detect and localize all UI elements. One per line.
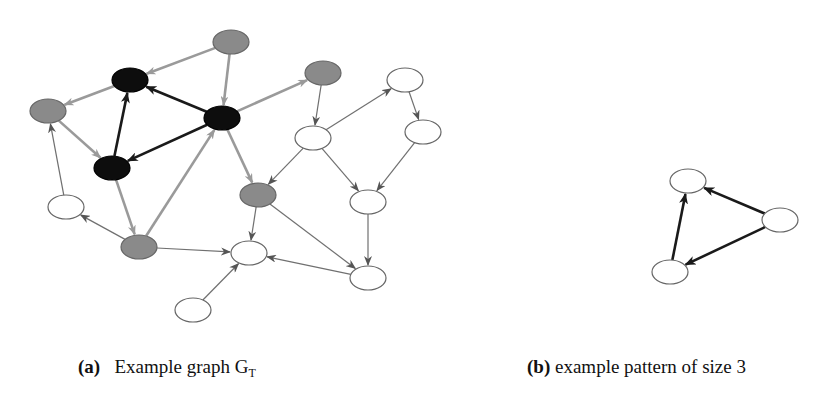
edge-b1-to-g2 (65, 86, 115, 105)
edge-w3-to-w4 (377, 143, 415, 191)
caption-a-label: (a) (78, 356, 100, 377)
node-wb (175, 298, 211, 322)
example-graph-gt (30, 30, 441, 322)
edge-g5-to-w5 (270, 204, 355, 268)
node-p3 (652, 260, 688, 284)
node-b1 (112, 68, 148, 92)
node-p2 (762, 208, 798, 232)
edge-g4-to-b2 (146, 130, 214, 236)
edge-g5-to-wc (251, 207, 256, 240)
edge-w1-to-w4 (322, 148, 358, 190)
caption-b-label: (b) (527, 356, 550, 377)
edge-wl-to-g2 (50, 124, 63, 195)
node-w3 (405, 120, 441, 144)
edge-w1-to-g5 (268, 148, 303, 184)
node-g5 (240, 183, 276, 207)
edge-b3-to-b1 (114, 93, 127, 156)
edge-b3-to-g4 (116, 180, 135, 235)
edge-wb-to-wc (203, 264, 239, 300)
edge-g1-to-b2 (224, 54, 230, 105)
edge-w5-to-wc (267, 257, 351, 275)
edge-p2-to-p1 (704, 188, 765, 214)
edge-p3-to-p1 (672, 194, 685, 260)
graph-b-nodes (652, 169, 798, 284)
caption-a: (a) Example graph GT (78, 356, 256, 381)
node-b2 (204, 106, 240, 130)
node-p1 (670, 169, 706, 193)
node-b3 (94, 156, 130, 180)
node-wl (48, 195, 84, 219)
graph-a-nodes (30, 30, 441, 322)
node-g3 (305, 61, 341, 85)
edge-g2-to-b3 (59, 121, 101, 158)
example-pattern-size-3 (652, 169, 798, 284)
node-g2 (30, 99, 66, 123)
edge-g4-to-wc (157, 248, 230, 252)
figure (0, 0, 823, 396)
edge-w2-to-w3 (409, 92, 419, 120)
caption-a-subscript: T (248, 366, 255, 380)
node-w4 (350, 190, 386, 214)
node-w1 (295, 126, 331, 150)
node-w5 (350, 266, 386, 290)
edge-b2-to-b1 (146, 87, 206, 112)
caption-a-text: Example graph G (114, 356, 248, 377)
edge-g1-to-b1 (147, 48, 216, 74)
node-g4 (121, 235, 157, 259)
edge-g4-to-wl (81, 215, 125, 239)
caption-b-text: example pattern of size 3 (550, 356, 746, 377)
node-g1 (213, 30, 249, 54)
edge-b2-to-g3 (237, 80, 307, 111)
edge-w1-to-w2 (326, 89, 391, 130)
edge-b2-to-g5 (227, 129, 252, 182)
node-wc (231, 241, 267, 265)
edge-b2-to-b3 (128, 125, 207, 161)
edge-g3-to-w1 (315, 85, 321, 125)
edge-p2-to-p3 (686, 227, 766, 265)
node-w2 (387, 68, 423, 92)
caption-b: (b) example pattern of size 3 (527, 356, 746, 378)
graph-b-edges (672, 188, 765, 265)
